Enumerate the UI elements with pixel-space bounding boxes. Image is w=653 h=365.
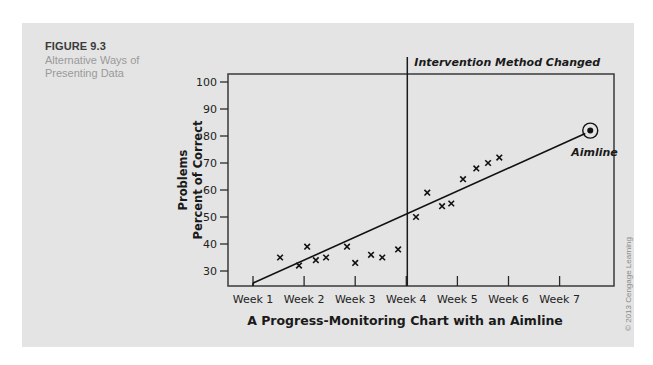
y-axis-title-line1: Problems: [176, 149, 190, 210]
x-tick-label: Week 5: [437, 293, 478, 306]
data-point-x-marker-icon: [395, 247, 401, 253]
x-tick-label: Week 2: [284, 293, 325, 306]
y-tick-label: 70: [203, 157, 217, 170]
data-point-x-marker-icon: [368, 252, 374, 258]
x-axis-title: A Progress-Monitoring Chart with an Aiml…: [247, 313, 563, 328]
aimline: Aimline: [253, 123, 618, 286]
y-tick-label: 100: [196, 76, 217, 89]
y-tick-label: 50: [203, 211, 217, 224]
x-tick-label: Week 7: [539, 293, 580, 306]
y-axis-title-line2: Percent of Correct: [191, 120, 205, 239]
data-point-x-marker-icon: [424, 190, 430, 196]
data-point-x-marker-icon: [439, 203, 445, 209]
x-tick-label: Week 1: [233, 293, 274, 306]
x-tick-label: Week 3: [335, 293, 376, 306]
data-point-x-marker-icon: [344, 244, 350, 250]
intervention-label: Intervention Method Changed: [414, 56, 600, 69]
x-tick-label: Week 6: [488, 293, 529, 306]
data-point-x-marker-icon: [474, 166, 480, 172]
data-point-x-marker-icon: [379, 255, 385, 261]
y-tick-label: 60: [203, 184, 217, 197]
data-point-x-marker-icon: [277, 255, 283, 261]
x-tick-label: Week 4: [386, 293, 427, 306]
y-tick-label: 30: [203, 265, 217, 278]
data-point-x-marker-icon: [313, 257, 319, 263]
plot-frame: [228, 74, 614, 286]
data-point-x-marker-icon: [304, 244, 310, 250]
data-point-x-marker-icon: [448, 201, 454, 207]
aimline-label: Aimline: [570, 146, 618, 159]
x-axis: Week 1Week 2Week 3Week 4Week 5Week 6Week…: [233, 276, 580, 306]
progress-monitoring-chart: 30405060708090100 Week 1Week 2Week 3Week…: [0, 0, 653, 365]
data-point-x-marker-icon: [352, 260, 358, 266]
data-points: [277, 155, 502, 269]
data-point-x-marker-icon: [413, 214, 419, 220]
data-point-x-marker-icon: [296, 263, 302, 269]
data-point-x-marker-icon: [323, 255, 329, 261]
data-point-x-marker-icon: [497, 155, 503, 161]
y-tick-label: 80: [203, 130, 217, 143]
data-point-x-marker-icon: [485, 160, 491, 166]
data-point-x-marker-icon: [460, 176, 466, 182]
y-tick-label: 40: [203, 238, 217, 251]
y-tick-label: 90: [203, 103, 217, 116]
